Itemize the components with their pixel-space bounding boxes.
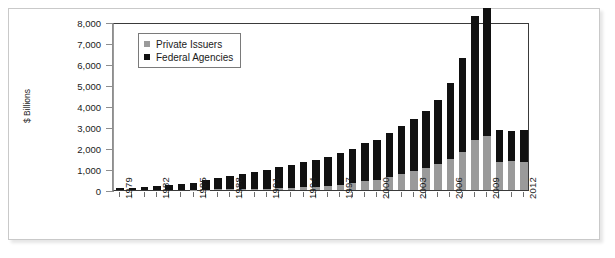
x-axis-tick-mark [180,192,181,197]
x-axis-tick-mark [364,192,365,197]
y-axis-tick-label: 2,000 [61,144,101,155]
x-axis-tick-mark [437,192,438,197]
bar-segment-federal-agencies [483,8,491,136]
bar-segment-private-issuers [324,186,332,190]
bar-segment-federal-agencies [422,111,430,168]
bar-segment-federal-agencies [141,187,149,190]
chart-figure-frame: $ Billions 8,0007,0006,0005,0004,0003,00… [8,8,600,240]
bar-segment-federal-agencies [496,130,504,162]
legend-swatch-federal-agencies-icon [144,54,150,60]
y-axis-tick-label: 0 [61,186,101,197]
x-axis-tick-label: 1991 [270,177,281,199]
legend-item-private-issuers: Private Issuers [144,38,233,50]
bar-segment-private-issuers [398,174,406,190]
x-axis-tick-label: 1979 [123,177,134,199]
bar-segment-federal-agencies [508,131,516,160]
x-axis-tick-mark [327,192,328,197]
y-axis-tick-label: 4,000 [61,102,101,113]
x-axis-tick-mark [413,192,414,197]
bar-segment-federal-agencies [251,172,259,189]
x-axis-tick-mark [217,192,218,197]
chart-bar [288,165,296,190]
y-axis-tick-mark [106,191,113,192]
x-axis-tick-label: 2012 [527,177,538,199]
x-axis-tick-mark [449,192,450,197]
bar-segment-federal-agencies [178,184,186,190]
bar-segment-federal-agencies [447,83,455,159]
legend-label-federal-agencies: Federal Agencies [156,52,233,63]
chart-bar [459,58,467,190]
y-axis-tick-label: 7,000 [61,39,101,50]
x-axis-tick-label: 1997 [343,177,354,199]
x-axis-tick-mark [266,192,267,197]
bar-segment-private-issuers [288,188,296,190]
chart-legend: Private Issuers Federal Agencies [138,33,241,68]
x-axis-tick-label: 2003 [417,177,428,199]
bar-segment-federal-agencies [398,126,406,174]
y-axis-tick-mark [106,44,113,45]
bar-segment-federal-agencies [386,133,394,177]
y-axis-tick-mark [106,86,113,87]
bar-segment-federal-agencies [373,140,381,180]
bar-segment-federal-agencies [361,143,369,181]
x-axis-tick-mark [290,192,291,197]
y-axis-tick-mark [106,170,113,171]
x-axis-tick-mark [156,192,157,197]
chart-bar [251,172,259,190]
y-axis-tick-label: 5,000 [61,81,101,92]
bar-segment-federal-agencies [410,119,418,172]
chart-bar [447,83,455,190]
y-axis-tick-label: 8,000 [61,18,101,29]
legend-swatch-private-issuers-icon [144,41,150,47]
bar-segment-federal-agencies [520,130,528,162]
x-axis-tick-mark [193,192,194,197]
x-axis-tick-mark [144,192,145,197]
x-axis-tick-label: 2006 [453,177,464,199]
x-axis-tick-label: 1982 [160,177,171,199]
bar-segment-federal-agencies [214,178,222,190]
bar-segment-federal-agencies [324,157,332,186]
x-axis-tick-mark [486,192,487,197]
x-axis-tick-mark [229,192,230,197]
bar-segment-private-issuers [434,164,442,190]
y-axis-tick-mark [106,23,113,24]
bar-segment-federal-agencies [459,58,467,153]
x-axis-tick-mark [254,192,255,197]
chart-bar [214,178,222,190]
x-axis-tick-mark [119,192,120,197]
y-axis-tick-mark [106,128,113,129]
chart-bar [178,184,186,190]
chart-bar [471,16,479,190]
y-axis-tick-mark [106,65,113,66]
bar-segment-federal-agencies [471,16,479,140]
x-axis-tick-label: 1985 [197,177,208,199]
x-axis-tick-mark [474,192,475,197]
x-axis-tick-label: 1994 [307,177,318,199]
y-axis-tick-labels: 8,0007,0006,0005,0004,0003,0002,0001,000… [57,9,101,241]
chart-bar [508,131,516,190]
legend-label-private-issuers: Private Issuers [156,39,222,50]
bar-segment-private-issuers [471,140,479,190]
x-axis-tick-mark [511,192,512,197]
bar-segment-federal-agencies [288,165,296,188]
chart-bar [434,100,442,190]
chart-bar [324,157,332,190]
bar-segment-private-issuers [361,181,369,190]
x-axis-tick-mark [401,192,402,197]
y-axis-tick-label: 1,000 [61,165,101,176]
y-axis-title: $ Billions [22,66,32,146]
x-axis-tick-label: 1988 [233,177,244,199]
y-axis-tick-label: 6,000 [61,60,101,71]
legend-item-federal-agencies: Federal Agencies [144,51,233,63]
chart-bar [483,8,491,190]
x-axis-tick-mark [523,192,524,197]
chart-bar [361,143,369,190]
x-axis-tick-label: 2009 [490,177,501,199]
x-axis-tick-label: 2000 [380,177,391,199]
bar-segment-private-issuers [508,161,516,190]
chart-bar [398,126,406,190]
bar-segment-private-issuers [214,189,222,190]
x-axis-tick-mark [339,192,340,197]
x-axis-tick-mark [303,192,304,197]
chart-plot-container: $ Billions 8,0007,0006,0005,0004,0003,00… [9,9,601,241]
